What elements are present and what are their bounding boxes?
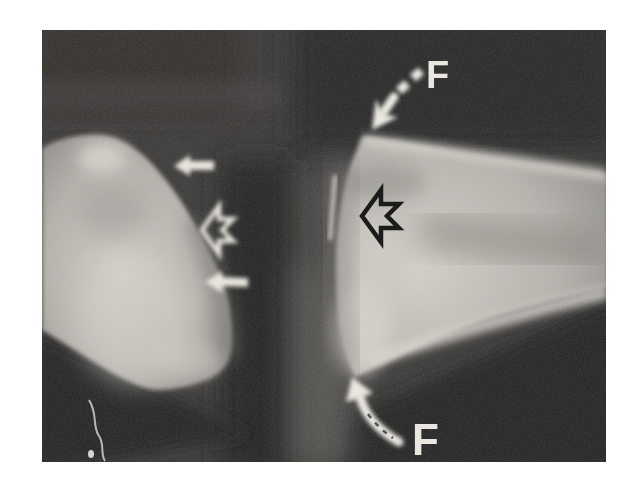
force-label-top: F: [426, 54, 449, 96]
radiograph-figure: F F: [42, 30, 606, 462]
radiograph-image: F F: [42, 30, 606, 462]
force-label-bottom: F: [412, 415, 439, 462]
halftone-grain-dark: [42, 30, 606, 462]
